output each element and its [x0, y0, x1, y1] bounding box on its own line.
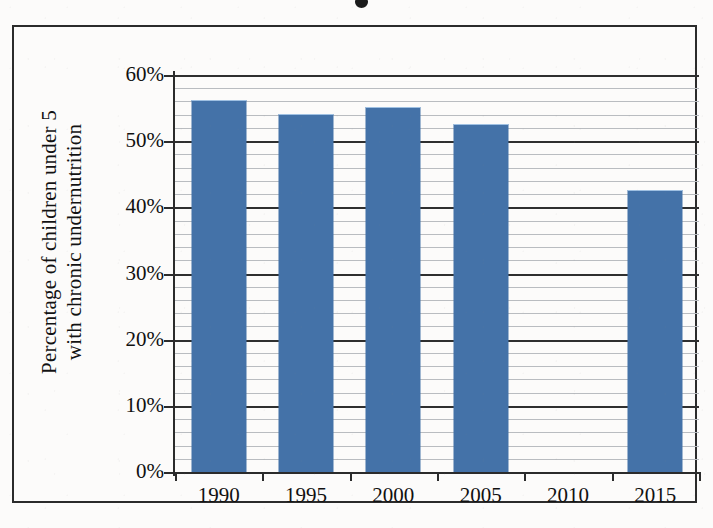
- y-axis-title-line-2: with chronic undernutrition: [62, 42, 87, 442]
- x-axis-tick-label: 2010: [523, 483, 613, 508]
- bar-series: [175, 75, 699, 472]
- bar-slot: [175, 75, 262, 472]
- bar[interactable]: [191, 100, 246, 472]
- bar[interactable]: [453, 124, 508, 472]
- x-axis-tick-label: 2000: [348, 483, 438, 508]
- y-axis-tick-label: 20%: [69, 327, 164, 352]
- x-axis-tick: [175, 472, 177, 481]
- bar-slot: [437, 75, 524, 472]
- bar-slot: [612, 75, 699, 472]
- y-axis-tick: [164, 207, 175, 209]
- y-axis-tick: [164, 340, 175, 342]
- x-axis-tick-label: 2015: [610, 483, 700, 508]
- x-axis-tick-label: 1990: [174, 483, 264, 508]
- x-axis-tick-label: 1995: [261, 483, 351, 508]
- figure-frame: Percentage of children under 5 with chro…: [12, 25, 697, 503]
- scanned-page: • Percentage of children under 5 with ch…: [0, 0, 713, 528]
- x-axis-tick: [699, 472, 701, 481]
- x-axis-tick-label: 2005: [436, 483, 526, 508]
- x-axis-tick: [437, 472, 439, 481]
- y-axis-tick-label: 60%: [69, 62, 164, 87]
- x-axis-tick: [262, 472, 264, 481]
- bar[interactable]: [628, 190, 683, 472]
- y-axis-tick-label: 40%: [69, 194, 164, 219]
- y-axis-tick-label: 0%: [69, 459, 164, 484]
- bar-slot: [350, 75, 437, 472]
- y-axis-tick: [164, 406, 175, 408]
- y-axis-tick-label: 30%: [69, 261, 164, 286]
- y-axis-tick: [164, 274, 175, 276]
- y-axis-title: Percentage of children under 5 with chro…: [37, 42, 87, 442]
- bar[interactable]: [366, 107, 421, 472]
- plot-area: [175, 75, 699, 472]
- y-axis-tick: [164, 141, 175, 143]
- y-axis-tick-label: 50%: [69, 128, 164, 153]
- bar[interactable]: [278, 114, 333, 472]
- y-axis-tick: [164, 75, 175, 77]
- y-axis-tick-label: 10%: [69, 393, 164, 418]
- bar-slot: [262, 75, 349, 472]
- cut-off-title-remnant: •: [355, 0, 368, 8]
- y-axis-title-line-1: Percentage of children under 5: [37, 42, 62, 442]
- x-axis-tick: [524, 472, 526, 481]
- x-axis-tick: [350, 472, 352, 481]
- x-axis-tick: [612, 472, 614, 481]
- bar-slot: [524, 75, 611, 472]
